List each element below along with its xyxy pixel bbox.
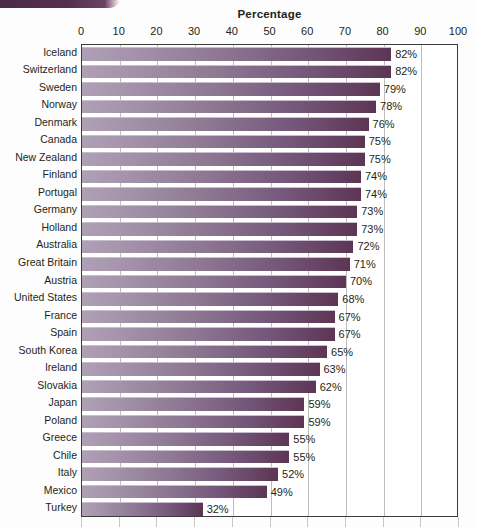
- bar-rows: 82%82%79%78%76%75%75%74%74%73%73%72%71%7…: [82, 45, 457, 516]
- bar-value-label: 55%: [293, 433, 315, 445]
- bar-value-label: 49%: [271, 486, 293, 498]
- category-label-portugal: Portugal: [0, 186, 77, 198]
- bar-value-label: 52%: [282, 468, 304, 480]
- bar-row: 55%: [82, 430, 457, 448]
- bar-mexico: [82, 485, 267, 499]
- category-label-chile: Chile: [0, 449, 77, 461]
- category-label-canada: Canada: [0, 133, 77, 145]
- bar-switzerland: [82, 65, 391, 79]
- category-label-austria: Austria: [0, 274, 77, 286]
- bar-value-label: 82%: [395, 65, 417, 77]
- category-label-finland: Finland: [0, 168, 77, 180]
- gridline-extension-10: [119, 517, 120, 527]
- bar-row: 75%: [82, 133, 457, 151]
- category-label-italy: Italy: [0, 466, 77, 478]
- category-label-sweden: Sweden: [0, 81, 77, 93]
- bar-value-label: 55%: [293, 451, 315, 463]
- bar-chart: Percentage 0102030405060708090100 Icelan…: [0, 0, 478, 527]
- bar-value-label: 32%: [207, 503, 229, 515]
- gridline-extension-100: [458, 517, 459, 527]
- bar-row: 82%: [82, 45, 457, 63]
- bar-south-korea: [82, 345, 327, 359]
- bar-row: 55%: [82, 448, 457, 466]
- bar-norway: [82, 100, 376, 114]
- bar-row: 76%: [82, 115, 457, 133]
- category-label-switzerland: Switzerland: [0, 63, 77, 75]
- bar-value-label: 67%: [339, 311, 361, 323]
- category-label-spain: Spain: [0, 326, 77, 338]
- bar-row: 71%: [82, 255, 457, 273]
- x-axis-tick-80: 80: [376, 25, 388, 37]
- bar-row: 78%: [82, 98, 457, 116]
- category-axis-labels: IcelandSwitzerlandSwedenNorwayDenmarkCan…: [0, 44, 77, 517]
- bar-row: 75%: [82, 150, 457, 168]
- bar-slovakia: [82, 380, 316, 394]
- bar-row: 49%: [82, 483, 457, 501]
- bar-portugal: [82, 187, 361, 201]
- gridline-extension-70: [345, 517, 346, 527]
- bar-canada: [82, 135, 365, 149]
- x-axis-tick-40: 40: [226, 25, 238, 37]
- bar-row: 73%: [82, 220, 457, 238]
- bar-turkey: [82, 502, 203, 516]
- plot-area: 82%82%79%78%76%75%75%74%74%73%73%72%71%7…: [81, 44, 458, 517]
- category-label-new-zealand: New Zealand: [0, 151, 77, 163]
- category-label-iceland: Iceland: [0, 46, 77, 58]
- x-axis-tick-10: 10: [113, 25, 125, 37]
- x-axis-tick-50: 50: [263, 25, 275, 37]
- bar-value-label: 68%: [342, 293, 364, 305]
- bar-row: 32%: [82, 500, 457, 518]
- bar-row: 62%: [82, 378, 457, 396]
- x-axis-tick-0: 0: [78, 25, 84, 37]
- bar-value-label: 65%: [331, 346, 353, 358]
- bar-united-states: [82, 292, 338, 306]
- gridline-extension-50: [270, 517, 271, 527]
- x-axis-tick-labels: 0102030405060708090100: [0, 25, 478, 41]
- gridline-extension-0: [81, 517, 82, 527]
- bar-row: 52%: [82, 465, 457, 483]
- bar-greece: [82, 432, 289, 446]
- category-label-ireland: Ireland: [0, 361, 77, 373]
- bar-value-label: 70%: [350, 275, 372, 287]
- bar-value-label: 73%: [361, 223, 383, 235]
- bar-value-label: 71%: [354, 258, 376, 270]
- bar-poland: [82, 415, 304, 429]
- bar-value-label: 76%: [373, 118, 395, 130]
- bar-finland: [82, 170, 361, 184]
- gridline-extension-80: [383, 517, 384, 527]
- gridline-extension-30: [194, 517, 195, 527]
- bar-row: 73%: [82, 203, 457, 221]
- bar-value-label: 75%: [369, 153, 391, 165]
- bar-row: 74%: [82, 185, 457, 203]
- bar-value-label: 74%: [365, 170, 387, 182]
- bar-great-britain: [82, 257, 350, 271]
- gridline-extension-20: [156, 517, 157, 527]
- category-label-germany: Germany: [0, 203, 77, 215]
- gridline-extension-60: [307, 517, 308, 527]
- x-axis-tick-70: 70: [339, 25, 351, 37]
- bar-value-label: 59%: [308, 398, 330, 410]
- x-axis-tick-60: 60: [301, 25, 313, 37]
- bar-denmark: [82, 117, 369, 131]
- bar-value-label: 62%: [320, 381, 342, 393]
- bar-value-label: 78%: [380, 100, 402, 112]
- category-label-turkey: Turkey: [0, 501, 77, 513]
- bar-row: 59%: [82, 395, 457, 413]
- bar-ireland: [82, 362, 320, 376]
- bar-row: 65%: [82, 343, 457, 361]
- category-label-slovakia: Slovakia: [0, 379, 77, 391]
- chart-title: Percentage: [81, 8, 458, 20]
- bar-value-label: 59%: [308, 416, 330, 428]
- category-label-denmark: Denmark: [0, 116, 77, 128]
- gridline-extension-40: [232, 517, 233, 527]
- category-label-south-korea: South Korea: [0, 344, 77, 356]
- bar-value-label: 63%: [324, 363, 346, 375]
- bar-row: 79%: [82, 80, 457, 98]
- category-label-japan: Japan: [0, 396, 77, 408]
- bar-row: 67%: [82, 308, 457, 326]
- category-label-poland: Poland: [0, 414, 77, 426]
- category-label-france: France: [0, 309, 77, 321]
- x-axis-tick-100: 100: [449, 25, 467, 37]
- bar-value-label: 73%: [361, 205, 383, 217]
- bar-australia: [82, 240, 353, 254]
